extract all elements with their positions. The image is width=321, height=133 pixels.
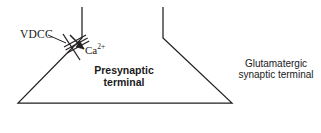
calcium-ion-charge: 2+ — [97, 42, 105, 51]
glutamatergic-terminal-label-line2: synaptic terminal — [238, 69, 313, 80]
glutamatergic-terminal-label: Glutamatergicsynaptic terminal — [231, 58, 321, 80]
vdcc-label: VDCC — [20, 28, 53, 41]
presynaptic-terminal-label-line2: terminal — [104, 76, 145, 88]
glutamatergic-terminal-label-line1: Glutamatergic — [245, 58, 307, 69]
figure-canvas: VDCC Ca2+ Presynapticterminal Glutamater… — [0, 0, 321, 133]
calcium-ion-symbol: Ca — [85, 44, 97, 56]
presynaptic-terminal-label-line1: Presynaptic — [94, 64, 154, 76]
presynaptic-terminal-outline — [18, 7, 232, 103]
calcium-ion-label: Ca2+ — [85, 44, 105, 56]
presynaptic-terminal-label: Presynapticterminal — [86, 65, 162, 89]
